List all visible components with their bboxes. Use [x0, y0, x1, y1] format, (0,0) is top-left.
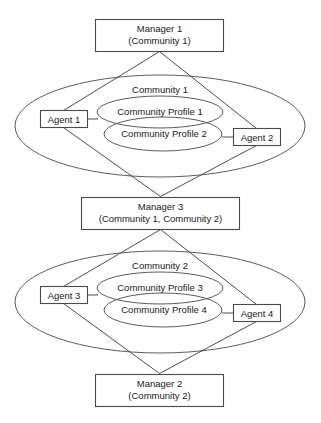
edges-agents-to-manager2	[64, 304, 257, 374]
edge-agent3-to-manager2	[64, 304, 160, 374]
manager-2-box[interactable]	[96, 375, 224, 407]
agent-4-box[interactable]	[234, 305, 281, 322]
community-profile-3-ellipse	[97, 272, 223, 304]
diagram-vector-layer	[0, 0, 321, 423]
agent-1-box[interactable]	[41, 111, 88, 128]
diagram-canvas: Manager 1 (Community 1) Community 1 Comm…	[0, 0, 321, 423]
community-profile-2-ellipse	[104, 117, 222, 151]
agent-3-box[interactable]	[41, 287, 88, 304]
manager-1-box[interactable]	[96, 20, 224, 52]
edge-agent4-to-manager2	[160, 322, 257, 374]
edges-agents-to-manager3	[64, 128, 257, 197]
edge-agent2-to-manager3	[161, 146, 257, 197]
edge-agent1-to-manager3	[64, 128, 161, 197]
community-profile-4-ellipse	[104, 293, 222, 327]
agent-2-box[interactable]	[234, 129, 281, 146]
community-profile-1-ellipse	[97, 96, 223, 128]
manager-3-box[interactable]	[82, 198, 240, 230]
